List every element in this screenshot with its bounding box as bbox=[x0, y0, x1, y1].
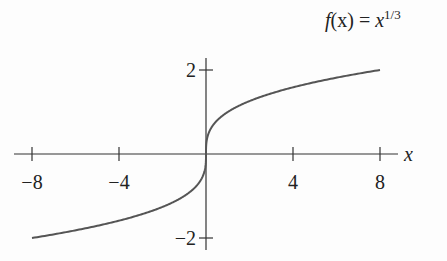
chart-container: −8−448−22 x f(x) = x1/3 bbox=[0, 0, 447, 261]
x-tick-label: 4 bbox=[288, 171, 298, 193]
y-tick-label: −2 bbox=[175, 227, 196, 249]
x-tick-label: 8 bbox=[375, 171, 385, 193]
y-tick-label: 2 bbox=[186, 59, 196, 81]
x-tick-label: −8 bbox=[21, 171, 42, 193]
cube-root-plot: −8−448−22 x f(x) = x1/3 bbox=[0, 0, 447, 261]
function-label: f(x) = x1/3 bbox=[325, 7, 401, 32]
x-axis-label: x bbox=[403, 143, 413, 165]
x-tick-label: −4 bbox=[108, 171, 129, 193]
